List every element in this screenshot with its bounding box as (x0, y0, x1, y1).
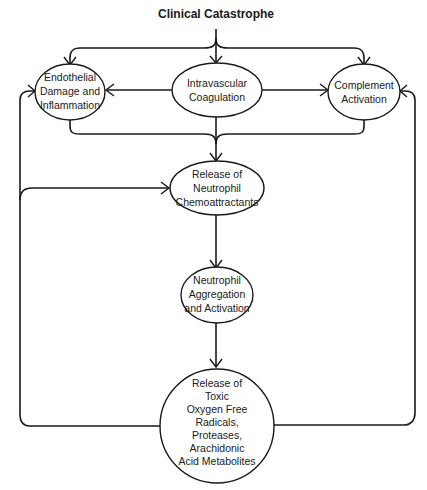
node-coagulation: IntravascularCoagulation (172, 63, 262, 117)
edge-chemo-to-aggregation (210, 215, 222, 268)
node-toxic: Release ofToxicOxygen FreeRadicals,Prote… (160, 369, 274, 483)
edge-aggregation-to-toxic (210, 322, 222, 367)
diagram-title: Clinical Catastrophe (158, 7, 274, 21)
diagram-canvas: Clinical Catastrophe (0, 0, 427, 490)
node-aggregation: NeutrophilAggregationand Activation (181, 267, 253, 323)
node-complement: ComplementActivation (328, 64, 400, 120)
edge-fanout-top (64, 29, 370, 65)
edge-merge-to-chemoattractants (70, 117, 364, 161)
edge-feedback-right (274, 85, 415, 425)
node-chemoattractants: Release ofNeutrophilChemoattractants (170, 161, 264, 215)
svg-text:EndothelialDamage andInflammat: EndothelialDamage andInflammation (40, 71, 100, 111)
edge-feedback-left (20, 85, 169, 426)
node-endothelial: EndothelialDamage andInflammation (35, 64, 105, 120)
svg-text:NeutrophilAggregationand Activ: NeutrophilAggregationand Activation (184, 274, 250, 314)
